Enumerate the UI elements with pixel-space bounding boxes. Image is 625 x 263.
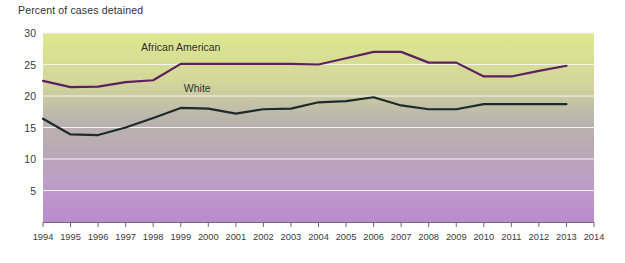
x-axis-label: 2014 (584, 232, 605, 242)
x-axis-label: 2013 (556, 232, 577, 242)
x-axis-ticks: 1994199519961997199819992000200120022003… (33, 222, 605, 242)
y-axis-label: 25 (24, 59, 36, 71)
x-axis-label: 1997 (115, 232, 136, 242)
x-axis-label: 2007 (391, 232, 412, 242)
x-axis-label: 1994 (33, 232, 54, 242)
series-annotation: White (184, 82, 211, 94)
x-axis-label: 2005 (336, 232, 357, 242)
y-axis-ticks: 51015202530 (24, 27, 36, 197)
x-axis-label: 1996 (88, 232, 109, 242)
x-axis-label: 1999 (170, 232, 191, 242)
y-axis-label: 20 (24, 90, 36, 102)
x-axis-label: 2004 (308, 232, 329, 242)
y-axis-label: 10 (24, 153, 36, 165)
x-axis-label: 2010 (473, 232, 494, 242)
x-axis-label: 2009 (446, 232, 467, 242)
chart-container: Percent of cases detained 51015202530 19… (0, 0, 625, 263)
x-axis-label: 2011 (501, 232, 521, 242)
x-axis-label: 2012 (529, 232, 550, 242)
x-axis-label: 1998 (143, 232, 164, 242)
x-axis-label: 2003 (281, 232, 302, 242)
chart-plot: 51015202530 1994199519961997199819992000… (0, 0, 625, 263)
x-axis-label: 2001 (226, 232, 247, 242)
y-axis-label: 15 (24, 122, 36, 134)
x-axis-label: 2008 (418, 232, 439, 242)
x-axis-label: 2002 (253, 232, 274, 242)
x-axis-label: 1995 (60, 232, 81, 242)
x-axis-label: 2000 (198, 232, 219, 242)
series-annotation: African American (141, 41, 221, 53)
y-axis-label: 30 (24, 27, 36, 39)
x-axis-label: 2006 (363, 232, 384, 242)
y-axis-label: 5 (30, 185, 36, 197)
